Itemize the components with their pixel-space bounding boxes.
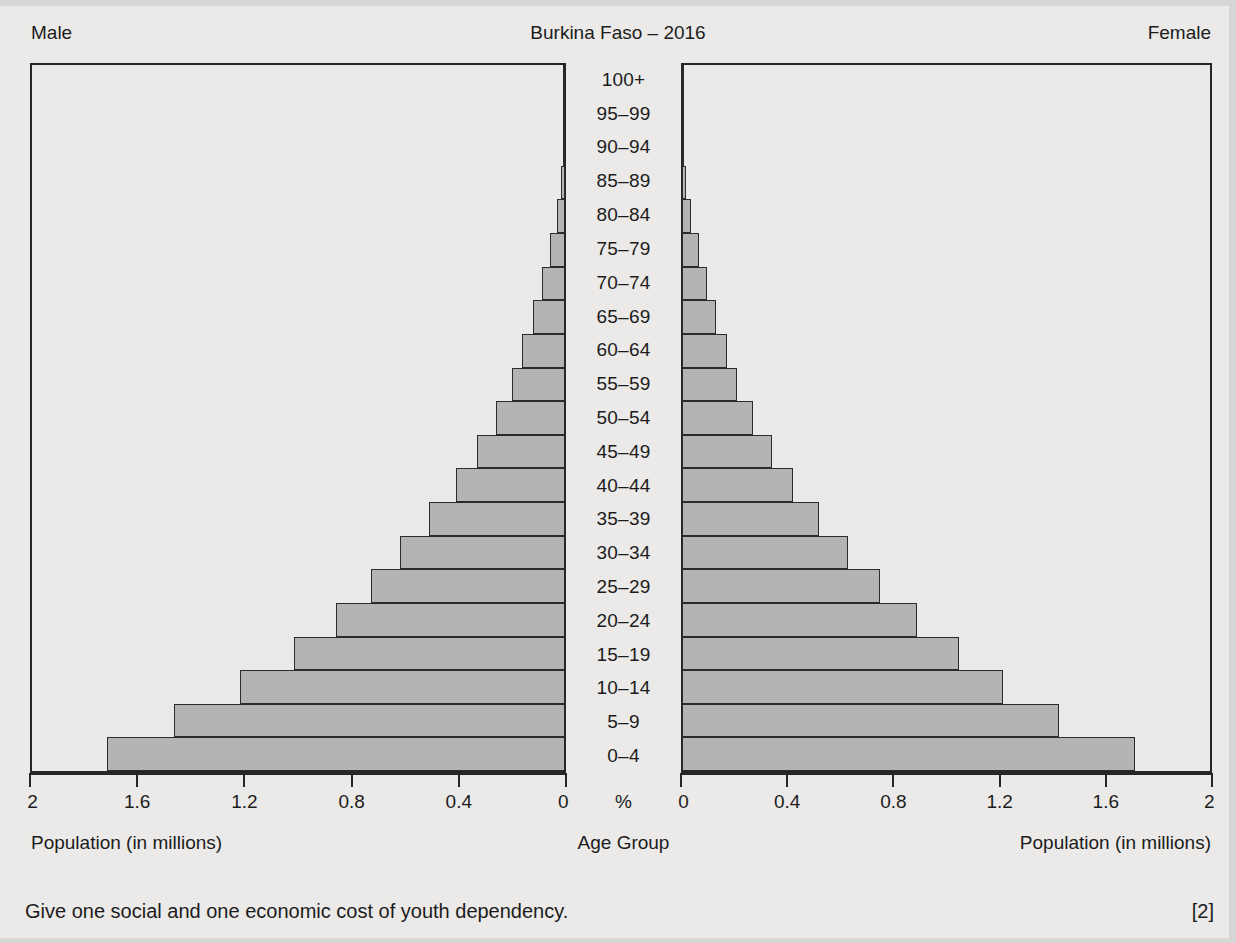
axis-tick-label: 2 (1204, 791, 1215, 813)
exam-question-text: Give one social and one economic cost of… (25, 900, 568, 923)
age-group-label: 40–44 (566, 469, 681, 503)
axis-tick (1105, 773, 1107, 787)
age-group-label: 50–54 (566, 401, 681, 435)
age-group-label: 25–29 (566, 570, 681, 604)
bar-male-35-39[interactable] (429, 502, 565, 536)
bar-male-65-69[interactable] (533, 300, 565, 334)
bar-row (683, 233, 1210, 267)
bar-row (683, 569, 1210, 603)
bar-row (683, 670, 1210, 704)
bar-row (32, 166, 564, 200)
bar-female-90-94[interactable] (682, 132, 684, 166)
bar-female-35-39[interactable] (682, 502, 819, 536)
bar-row (683, 637, 1210, 671)
axis-line (30, 773, 566, 775)
bar-row (32, 99, 564, 133)
bar-female-85-89[interactable] (682, 166, 686, 200)
bar-male-95-99[interactable] (563, 99, 565, 133)
bar-male-20-24[interactable] (336, 603, 565, 637)
bar-male-30-34[interactable] (400, 536, 565, 570)
chart-title: Burkina Faso – 2016 (0, 22, 1236, 44)
bar-row (32, 603, 564, 637)
age-group-label: 15–19 (566, 638, 681, 672)
axis-tick (565, 773, 567, 787)
bar-male-75-79[interactable] (550, 233, 565, 267)
axis-tick-label: 0.4 (446, 791, 472, 813)
axis-tick (351, 773, 353, 787)
bar-male-100+[interactable] (563, 65, 565, 99)
bar-male-0-4[interactable] (107, 737, 565, 771)
bar-male-5-9[interactable] (174, 704, 565, 738)
bar-male-10-14[interactable] (240, 670, 565, 704)
age-group-axis: 0–45–910–1415–1920–2425–2930–3435–3940–4… (566, 63, 681, 773)
bar-row (32, 737, 564, 771)
age-group-label: 100+ (566, 63, 681, 97)
bar-female-30-34[interactable] (682, 536, 848, 570)
bar-male-55-59[interactable] (512, 368, 565, 402)
bar-male-45-49[interactable] (477, 435, 565, 469)
bar-row (683, 737, 1210, 771)
bar-male-70-74[interactable] (542, 267, 565, 301)
bar-row (32, 132, 564, 166)
bar-male-85-89[interactable] (561, 166, 565, 200)
axis-tick-label: 0.4 (774, 791, 800, 813)
axis-tick-label: 0 (678, 791, 689, 813)
bar-female-100+[interactable] (682, 65, 684, 99)
bar-female-10-14[interactable] (682, 670, 1003, 704)
bar-female-80-84[interactable] (682, 199, 691, 233)
axis-tick-label: 1.2 (986, 791, 1012, 813)
age-group-label: 5–9 (566, 705, 681, 739)
female-side-label: Female (1148, 22, 1211, 44)
axis-tick-label: 0.8 (338, 791, 364, 813)
bar-row (32, 569, 564, 603)
bar-female-55-59[interactable] (682, 368, 737, 402)
bar-female-60-64[interactable] (682, 334, 727, 368)
bar-row (32, 300, 564, 334)
bar-male-80-84[interactable] (557, 199, 565, 233)
bar-male-40-44[interactable] (456, 468, 565, 502)
age-group-label: 35–39 (566, 503, 681, 537)
bar-row (32, 334, 564, 368)
bar-female-65-69[interactable] (682, 300, 716, 334)
female-bar-rows (683, 65, 1210, 771)
bar-male-60-64[interactable] (522, 334, 565, 368)
left-axis-caption: Population (in millions) (31, 832, 222, 854)
bar-male-50-54[interactable] (496, 401, 565, 435)
bar-female-70-74[interactable] (682, 267, 707, 301)
chart-header: Male Burkina Faso – 2016 Female (0, 22, 1236, 46)
bar-female-75-79[interactable] (682, 233, 699, 267)
bar-male-15-19[interactable] (294, 637, 565, 671)
bar-row (32, 468, 564, 502)
bar-female-40-44[interactable] (682, 468, 793, 502)
right-axis-caption: Population (in millions) (1020, 832, 1211, 854)
bar-row (683, 132, 1210, 166)
age-group-label: 20–24 (566, 604, 681, 638)
centre-axis-caption: Age Group (566, 832, 681, 854)
bar-row (683, 99, 1210, 133)
bar-female-25-29[interactable] (682, 569, 880, 603)
bar-female-0-4[interactable] (682, 737, 1135, 771)
age-group-label: 0–4 (566, 739, 681, 773)
bar-row (32, 233, 564, 267)
male-plot-panel (30, 63, 566, 773)
page-edge-bottom (0, 938, 1236, 943)
female-tick-labels: 00.40.81.21.62 (681, 791, 1212, 819)
bar-row (683, 536, 1210, 570)
bar-male-25-29[interactable] (371, 569, 565, 603)
age-group-label: 65–69 (566, 300, 681, 334)
bar-row (32, 536, 564, 570)
male-x-axis (30, 773, 566, 787)
axis-tick (243, 773, 245, 787)
bar-female-95-99[interactable] (682, 99, 684, 133)
bar-row (32, 435, 564, 469)
bar-female-15-19[interactable] (682, 637, 959, 671)
bar-female-20-24[interactable] (682, 603, 917, 637)
bar-female-45-49[interactable] (682, 435, 772, 469)
female-plot-panel (681, 63, 1212, 773)
bar-female-5-9[interactable] (682, 704, 1059, 738)
bar-male-90-94[interactable] (563, 132, 565, 166)
bar-row (32, 267, 564, 301)
male-bar-rows (32, 65, 564, 771)
bar-row (683, 704, 1210, 738)
bar-female-50-54[interactable] (682, 401, 753, 435)
